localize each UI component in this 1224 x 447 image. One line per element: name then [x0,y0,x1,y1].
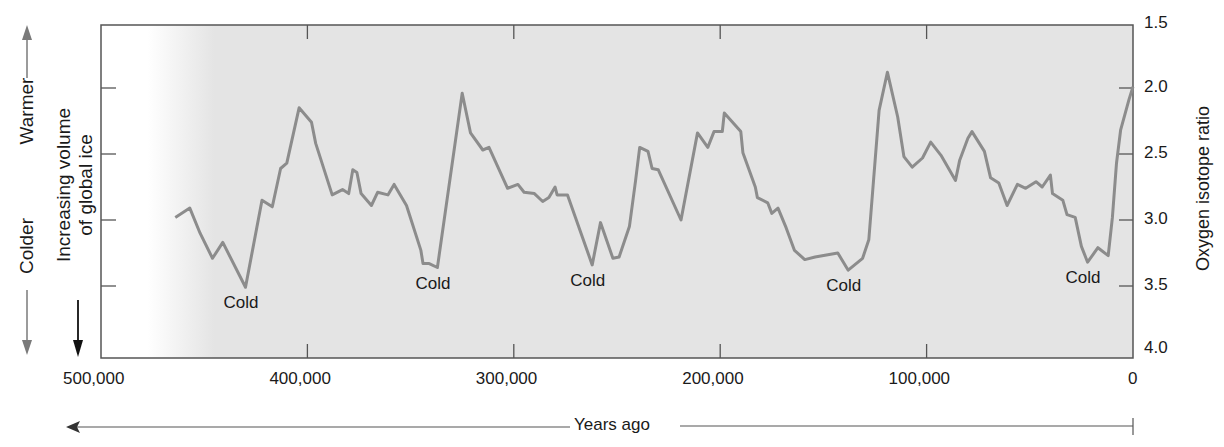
x-tick-label: 300,000 [476,369,537,389]
cold-annotation: Cold [223,293,258,313]
ice-volume-label-line1: Increasing volume [53,100,75,270]
cold-annotation: Cold [826,276,861,296]
cold-annotation: Cold [415,274,450,294]
cold-annotation: Cold [570,271,605,291]
y-tick-label: 2.0 [1144,77,1168,97]
x-tick-label: 200,000 [682,369,743,389]
ice-volume-label-line2: of global ice [75,100,97,270]
y-tick-label: 1.5 [1144,13,1168,33]
x-tick-label: 400,000 [269,369,330,389]
colder-label: Colder [16,213,38,279]
x-tick-label: 0 [1128,369,1137,389]
y-axis-title: Oxygen isotope ratio [1193,94,1214,284]
x-tick-label: 100,000 [889,369,950,389]
warmer-colder-arrow-icon [22,25,32,355]
warmer-label: Warmer [16,76,38,146]
y-tick-label: 3.5 [1144,275,1168,295]
ice-volume-arrow-icon [73,300,83,357]
cold-annotation: Cold [1066,268,1101,288]
y-tick-label: 4.0 [1144,338,1168,358]
y-tick-label: 2.5 [1144,143,1168,163]
y-tick-label: 3.0 [1144,209,1168,229]
chart-canvas [0,0,1224,447]
x-tick-label: 500,000 [63,369,124,389]
x-axis-title: Years ago [574,415,650,435]
